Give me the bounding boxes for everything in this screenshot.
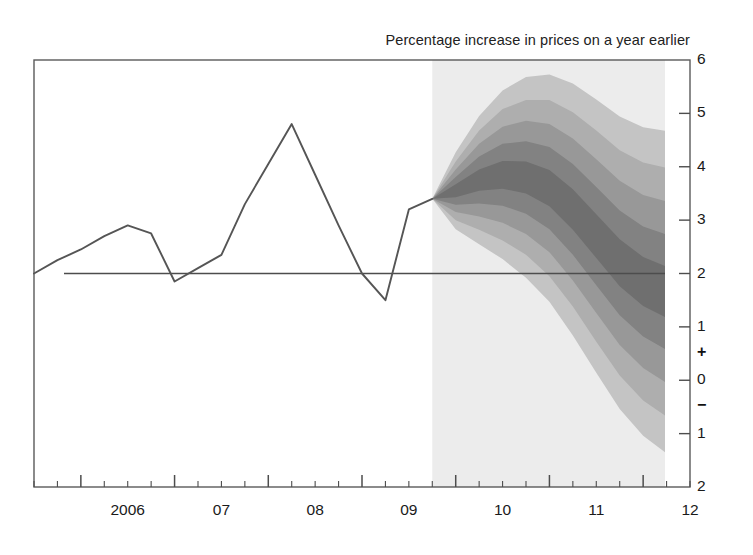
y-axis-tick-label: 3 <box>697 210 706 228</box>
fan-chart: Percentage increase in prices on a year … <box>0 0 753 555</box>
x-axis-tick-label: 12 <box>660 501 720 519</box>
y-axis-tick-label: 2 <box>697 477 706 495</box>
plot-area <box>0 0 753 555</box>
x-axis-tick-label: 11 <box>566 501 626 519</box>
y-axis-tick-label: 5 <box>697 103 706 121</box>
x-axis-tick-label: 07 <box>191 501 251 519</box>
y-axis-tick-label: 6 <box>697 50 706 68</box>
x-axis-tick-label: 10 <box>473 501 533 519</box>
x-axis-tick-label: 08 <box>285 501 345 519</box>
y-axis-tick-label: 0 <box>697 370 706 388</box>
y-axis-tick-label: 1 <box>697 424 706 442</box>
x-axis-tick-label: 2006 <box>98 501 158 519</box>
y-axis-tick-label: 2 <box>697 264 706 282</box>
positive-sign-marker: + <box>697 343 706 361</box>
x-axis-tick-label: 09 <box>379 501 439 519</box>
y-axis-tick-label: 1 <box>697 317 706 335</box>
negative-sign-marker: − <box>697 396 706 414</box>
y-axis-tick-label: 4 <box>697 157 706 175</box>
